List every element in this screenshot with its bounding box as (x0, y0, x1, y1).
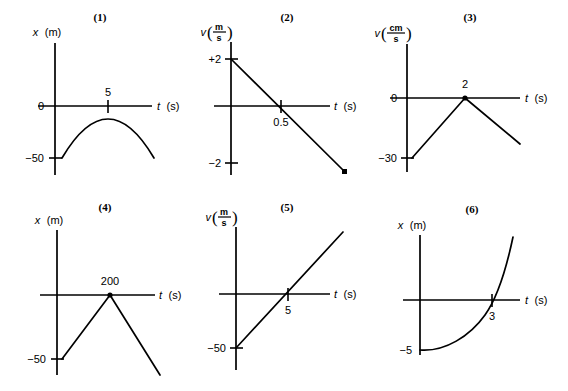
panel-3-x-tick-2: 2 (462, 78, 468, 90)
panel-1-x-axis-variable: t (157, 100, 161, 112)
panel-1-x-axis-unit: (s) (167, 100, 180, 112)
panel-5-paren-close: ) (232, 208, 238, 227)
panel-2-y-tick-plus2: +2 (208, 53, 221, 65)
panel-6-curve (420, 237, 513, 350)
panel-3-unit-denominator: s (393, 34, 398, 44)
panel-1-y-axis-variable: x (32, 26, 39, 38)
panel-5-number: (5) (281, 201, 294, 214)
panel-4-y-axis-unit: (m) (47, 214, 64, 226)
panel-3-x-axis-label: t (s) (525, 88, 547, 105)
panel-3-y-tick-0: 0 (391, 92, 397, 104)
panel-2-x-tick-half: 0.5 (273, 116, 288, 128)
panel-4: (4) x (m) t (s) −50 200 (27, 201, 181, 375)
panel-6-y-tick-minus5: −5 (399, 344, 412, 356)
panel-6-x-axis-label: t (s) (525, 290, 547, 307)
panel-2: (2) v ( m s ) t (s) +2 −2 0.5 (201, 11, 357, 175)
panel-4-curve (62, 295, 160, 375)
panel-3-unit-numerator: cm (389, 23, 402, 33)
panel-1-y-tick-minus50: −50 (25, 152, 44, 164)
panel-1-y-axis-unit: (m) (45, 26, 62, 38)
panel-1-number: (1) (94, 11, 107, 24)
panel-3-y-tick-minus30: −30 (378, 152, 397, 164)
panel-5-paren-open: ( (212, 208, 218, 227)
panel-4-x-axis-label: t (s) (159, 285, 181, 302)
panel-2-x-axis-label: t (s) (334, 96, 356, 113)
panel-6-number: (6) (466, 203, 479, 216)
panel-2-paren-open: ( (207, 23, 213, 42)
figure-canvas: (1) x (m) t (s) 0 −50 5 (0, 0, 568, 391)
panel-3: (3) v ( cm s ) t (s) 0 −30 2 (375, 11, 548, 172)
panel-1-x-tick-5: 5 (105, 86, 111, 98)
panel-2-unit-numerator: m (215, 22, 223, 32)
panel-4-y-axis-label: x (m) (34, 210, 63, 227)
panel-3-x-axis-variable: t (525, 92, 529, 104)
panel-2-curve (231, 59, 345, 172)
panel-4-peak-dot (107, 292, 112, 297)
panel-2-y-tick-minus2: −2 (208, 157, 221, 169)
panel-3-paren-close: ) (406, 24, 412, 43)
panel-2-number: (2) (281, 11, 294, 24)
panel-5-x-axis-unit: (s) (344, 288, 357, 300)
panel-2-paren-close: ) (227, 23, 233, 42)
panel-6-y-axis-variable: x (397, 219, 404, 231)
panel-2-endpoint-dot (342, 169, 347, 174)
panel-3-paren-open: ( (381, 24, 387, 43)
panel-5-x-tick-5: 5 (285, 304, 291, 316)
panel-2-x-axis-variable: t (334, 100, 338, 112)
panel-1-curve (62, 119, 154, 158)
panel-4-x-axis-unit: (s) (169, 289, 182, 301)
panel-2-y-axis-label: v ( m s ) (201, 22, 233, 43)
panel-6-x-tick-3: 3 (489, 310, 495, 322)
panel-3-curve (412, 98, 520, 158)
panel-1: (1) x (m) t (s) 0 −50 5 (25, 11, 179, 175)
panel-5-curve (236, 232, 343, 348)
panel-3-x-axis-unit: (s) (535, 92, 548, 104)
panel-2-unit-denominator: s (216, 33, 221, 43)
panel-5: (5) v ( m s ) t (s) −50 5 (206, 201, 357, 370)
panel-2-x-axis-unit: (s) (344, 100, 357, 112)
panel-4-y-tick-minus50: −50 (27, 353, 46, 365)
panel-4-y-axis-variable: x (34, 214, 41, 226)
panel-6: (6) x (m) t (s) −5 3 (397, 203, 548, 356)
panel-5-x-axis-variable: t (334, 288, 338, 300)
panel-5-y-tick-minus50: −50 (207, 342, 226, 354)
panel-6-x-axis-variable: t (525, 294, 529, 306)
panel-3-number: (3) (464, 11, 477, 24)
panel-6-y-axis-unit: (m) (410, 219, 427, 231)
panel-3-y-axis-label: v ( cm s ) (375, 23, 412, 44)
panel-4-number: (4) (99, 201, 112, 214)
panel-4-x-axis-variable: t (159, 289, 163, 301)
panel-6-x-axis-unit: (s) (535, 294, 548, 306)
panel-5-y-axis-label: v ( m s ) (206, 207, 238, 228)
panel-4-x-tick-200: 200 (101, 275, 119, 287)
panel-5-unit-numerator: m (220, 207, 228, 217)
panel-1-x-axis-label: t (s) (157, 96, 179, 113)
panel-3-peak-dot (462, 95, 467, 100)
panel-5-x-axis-label: t (s) (334, 284, 356, 301)
panel-1-y-axis-label: x (m) (32, 22, 61, 39)
panel-5-unit-denominator: s (221, 218, 226, 228)
panel-6-y-axis-label: x (m) (397, 215, 426, 232)
kinematics-graphs-figure: (1) x (m) t (s) 0 −50 5 (0, 0, 568, 391)
panel-1-y-tick-0: 0 (38, 100, 44, 112)
